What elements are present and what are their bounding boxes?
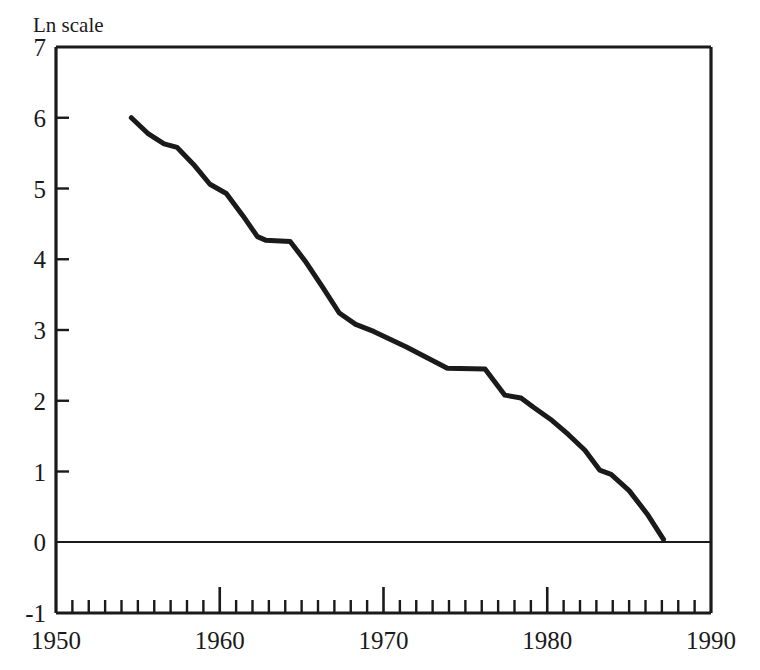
y-tick-label-0: 0 <box>34 529 47 556</box>
y-axis-tick-labels: 76543210-1 <box>25 34 46 627</box>
y-tick-label-6: 6 <box>34 105 47 132</box>
y-tick-label-1: 1 <box>34 459 47 486</box>
y-tick-label-7: 7 <box>34 34 47 61</box>
y-tick-label-2: 2 <box>34 388 47 415</box>
x-tick-label-1960: 1960 <box>195 627 245 654</box>
x-axis-tick-labels: 19501960197019801990 <box>31 627 736 654</box>
y-tick-label--1: -1 <box>25 600 46 627</box>
line-chart: Ln scale 76543210-1 19501960197019801990 <box>0 0 760 670</box>
x-axis-ticks <box>72 587 694 613</box>
y-tick-label-3: 3 <box>34 317 47 344</box>
y-tick-label-5: 5 <box>34 176 47 203</box>
x-tick-label-1980: 1980 <box>522 627 572 654</box>
series-line-0 <box>131 118 663 540</box>
chart-container: Ln scale 76543210-1 19501960197019801990 <box>0 0 760 670</box>
x-tick-label-1990: 1990 <box>686 627 736 654</box>
y-axis-ticks <box>56 118 69 472</box>
plot-frame <box>56 47 711 613</box>
x-tick-label-1950: 1950 <box>31 627 81 654</box>
data-series-group <box>131 118 663 540</box>
x-tick-label-1970: 1970 <box>359 627 409 654</box>
y-tick-label-4: 4 <box>34 246 47 273</box>
